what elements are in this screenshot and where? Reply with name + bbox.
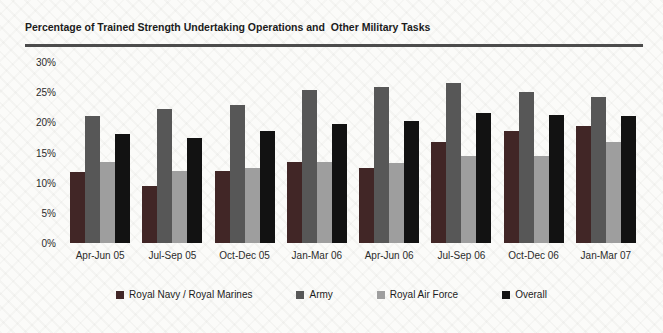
bar-group [504, 62, 564, 243]
x-axis-label: Jan-Mar 06 [281, 250, 353, 261]
bar-group [359, 62, 419, 243]
bar-group [215, 62, 275, 243]
bar-royal-navy-royal-marines [431, 142, 446, 243]
x-axis-label: Jul-Sep 06 [425, 250, 497, 261]
y-axis-label: 10% [36, 177, 56, 188]
legend-label: Overall [515, 289, 547, 300]
bar-overall [476, 113, 491, 243]
bar-group [287, 62, 347, 243]
y-axis-label: 20% [36, 117, 56, 128]
bar-royal-air-force [317, 162, 332, 243]
x-axis-label: Oct-Dec 05 [209, 250, 281, 261]
bar-army [446, 83, 461, 243]
bar-army [157, 109, 172, 243]
bar-royal-air-force [461, 156, 476, 243]
bar-group [70, 62, 130, 243]
legend-label: Royal Air Force [390, 289, 458, 300]
bar-army [591, 97, 606, 243]
title-divider [25, 44, 643, 47]
bar-royal-air-force [245, 168, 260, 243]
report-chart-page: Percentage of Trained Strength Undertaki… [0, 0, 663, 333]
bar-army [374, 87, 389, 243]
x-axis-label: Jan-Mar 07 [570, 250, 642, 261]
bar-army [302, 90, 317, 243]
y-axis-label: 25% [36, 87, 56, 98]
legend-swatch-overall [502, 291, 510, 299]
y-axis: 30%25%20%15%10%5%0% [0, 62, 56, 243]
legend-swatch-royal-air-force [377, 291, 385, 299]
legend-label: Army [309, 289, 332, 300]
legend-item-royal-air-force: Royal Air Force [377, 289, 458, 300]
bar-overall [549, 115, 564, 244]
bar-overall [332, 124, 347, 243]
bar-royal-navy-royal-marines [576, 126, 591, 243]
bar-army [230, 105, 245, 243]
legend-swatch-army [296, 291, 304, 299]
bar-overall [621, 116, 636, 243]
bar-royal-navy-royal-marines [70, 172, 85, 243]
bar-overall [260, 131, 275, 243]
bar-overall [404, 121, 419, 243]
bar-royal-air-force [389, 163, 404, 243]
y-axis-label: 15% [36, 147, 56, 158]
y-axis-label: 30% [36, 57, 56, 68]
bar-royal-navy-royal-marines [142, 186, 157, 243]
x-axis-label: Jul-Sep 05 [136, 250, 208, 261]
x-axis-label: Apr-Jun 06 [353, 250, 425, 261]
legend-item-overall: Overall [502, 289, 547, 300]
legend-item-royal-navy-royal-marines: Royal Navy / Royal Marines [116, 289, 252, 300]
bar-overall [187, 138, 202, 243]
x-axis-label: Oct-Dec 06 [498, 250, 570, 261]
legend: Royal Navy / Royal MarinesArmyRoyal Air … [0, 289, 663, 300]
bar-army [85, 116, 100, 243]
bar-royal-navy-royal-marines [215, 171, 230, 243]
plot-area [64, 62, 642, 243]
y-axis-label: 5% [42, 207, 56, 218]
bar-royal-navy-royal-marines [287, 162, 302, 243]
bar-royal-air-force [172, 171, 187, 243]
bar-group [431, 62, 491, 243]
chart-title: Percentage of Trained Strength Undertaki… [25, 21, 430, 33]
bar-royal-air-force [100, 162, 115, 243]
bar-royal-navy-royal-marines [359, 168, 374, 243]
bar-group [142, 62, 202, 243]
bar-group [576, 62, 636, 243]
bar-royal-navy-royal-marines [504, 131, 519, 243]
bar-royal-air-force [606, 142, 621, 243]
legend-item-army: Army [296, 289, 332, 300]
x-axis: Apr-Jun 05Jul-Sep 05Oct-Dec 05Jan-Mar 06… [64, 250, 642, 261]
y-axis-label: 0% [42, 238, 56, 249]
bar-royal-air-force [534, 156, 549, 243]
bar-overall [115, 134, 130, 243]
x-axis-label: Apr-Jun 05 [64, 250, 136, 261]
bar-army [519, 92, 534, 243]
legend-label: Royal Navy / Royal Marines [129, 289, 252, 300]
legend-swatch-royal-navy-royal-marines [116, 291, 124, 299]
